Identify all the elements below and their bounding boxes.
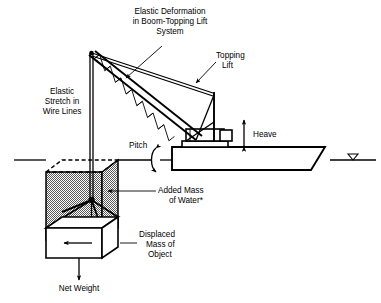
label-heave-text: Heave (253, 130, 277, 139)
label-displaced-mass-line-2: Mass of (146, 240, 175, 249)
label-elastic-deformation-line-2: in Boom-Topping Lift (133, 17, 208, 26)
diagram-canvas: Elastic Deformation in Boom-Topping Lift… (0, 0, 381, 303)
lattice-boom-truss (89, 51, 202, 141)
label-pitch-text: Pitch (129, 141, 148, 150)
pitch-rotation-arrow (152, 148, 157, 172)
label-displaced-mass: Displaced Mass of Object (139, 230, 175, 259)
label-topping-lift-line-1: Topping (216, 51, 245, 60)
label-pitch: Pitch (129, 141, 148, 150)
label-net-weight-text: Net Weight (59, 284, 100, 293)
label-added-mass: Added Mass of Water* (158, 186, 204, 205)
label-elastic-deformation-line-3: System (156, 27, 183, 36)
label-elastic-stretch: Elastic Stretch in Wire Lines (43, 87, 82, 116)
label-elastic-deformation-line-1: Elastic Deformation (135, 7, 206, 16)
label-elastic-stretch-line-3: Wire Lines (43, 107, 82, 116)
label-net-weight: Net Weight (59, 284, 100, 293)
crane-barge-hull (172, 147, 325, 170)
label-displaced-mass-line-1: Displaced (139, 230, 175, 239)
label-elastic-stretch-line-1: Elastic (50, 87, 74, 96)
label-heave: Heave (253, 130, 277, 139)
label-topping-lift-line-2: Lift (222, 61, 234, 70)
label-added-mass-line-2: of Water* (169, 196, 204, 205)
label-topping-lift: Topping Lift (216, 51, 245, 70)
water-surface-triangle-symbol (348, 154, 358, 160)
crane-machinery-house (182, 92, 232, 147)
label-elastic-stretch-line-2: Stretch in (45, 97, 80, 106)
label-elastic-deformation: Elastic Deformation in Boom-Topping Lift… (133, 7, 208, 36)
label-added-mass-line-1: Added Mass (158, 186, 204, 195)
label-displaced-mass-line-3: Object (148, 250, 172, 259)
white-displaced-object-box (46, 217, 118, 258)
leader-topping-lift (196, 62, 216, 83)
engineering-diagram-figure: Elastic Deformation in Boom-Topping Lift… (0, 0, 381, 303)
